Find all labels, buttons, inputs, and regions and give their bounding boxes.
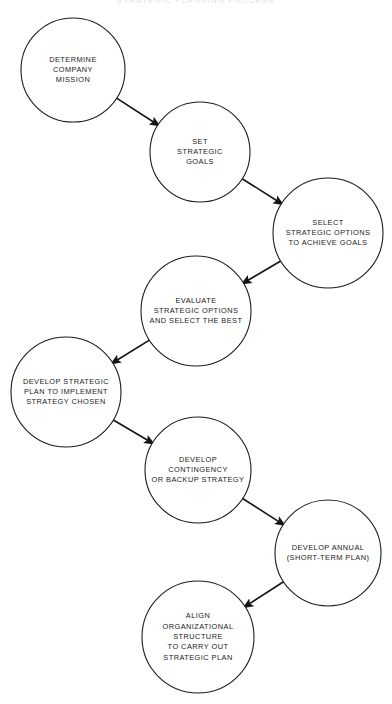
- node-label-line: DEVELOP: [179, 455, 217, 464]
- nodes-group: DETERMINECOMPANYMISSIONSETSTRATEGICGOALS…: [11, 18, 383, 693]
- connector-arrow: [243, 581, 285, 608]
- connector-arrow: [242, 498, 286, 526]
- connector-line: [116, 340, 150, 361]
- node-evaluate-strategic-options[interactable]: EVALUATESTRATEGIC OPTIONSAND SELECT THE …: [141, 256, 251, 366]
- connector-line: [248, 581, 284, 604]
- connector-arrow: [112, 419, 154, 444]
- node-set-strategic-goals[interactable]: SETSTRATEGICGOALS: [150, 102, 250, 202]
- node-label-line: SELECT: [312, 218, 343, 227]
- node-label-line: DEVELOP STRATEGIC: [23, 377, 109, 386]
- node-label-line: STRATEGIC: [177, 147, 223, 156]
- node-label-line: GOALS: [186, 157, 214, 166]
- node-label-line: ALIGN: [186, 611, 210, 620]
- node-label-line: STRATEGIC PLAN: [163, 653, 232, 662]
- connector-line: [242, 498, 280, 522]
- node-label-line: DEVELOP ANNUAL: [292, 543, 365, 552]
- node-select-strategic-options[interactable]: SELECTSTRATEGIC OPTIONSTO ACHIEVE GOALS: [273, 178, 383, 288]
- node-label-line: MISSION: [56, 75, 90, 84]
- node-label-line: ORGANIZATIONAL: [162, 622, 233, 631]
- flowchart-diagram: STRATEGIC PLANNING PROCESS DETERMINECOMP…: [0, 0, 392, 704]
- node-label-line: SET: [192, 137, 208, 146]
- connector-arrow: [241, 260, 282, 284]
- node-label-line: COMPANY: [53, 65, 93, 74]
- node-label-line: STRATEGIC OPTIONS: [286, 228, 371, 237]
- node-label-line: OR BACKUP STRATEGY: [152, 475, 245, 484]
- node-develop-annual-plan[interactable]: DEVELOP ANNUAL(SHORT-TERM PLAN): [275, 500, 381, 606]
- connector-arrow: [241, 178, 284, 205]
- node-label-line: TO CARRY OUT: [168, 642, 229, 651]
- connector-line: [241, 178, 278, 201]
- node-label-line: DETERMINE: [49, 55, 97, 64]
- node-develop-strategic-plan[interactable]: DEVELOP STRATEGICPLAN TO IMPLEMENTSTRATE…: [11, 337, 121, 447]
- node-label-line: AND SELECT THE BEST: [150, 316, 243, 325]
- node-align-organizational-structure[interactable]: ALIGNORGANIZATIONALSTRUCTURETO CARRY OUT…: [142, 581, 254, 693]
- node-determine-company-mission[interactable]: DETERMINECOMPANYMISSION: [21, 18, 125, 122]
- node-label-line: STRATEGIC OPTIONS: [154, 306, 239, 315]
- node-label-line: PLAN TO IMPLEMENT: [24, 387, 108, 396]
- connector-line: [116, 98, 155, 123]
- node-label-line: EVALUATE: [175, 296, 216, 305]
- node-label-line: STRATEGY CHOSEN: [26, 397, 106, 406]
- connector-arrow: [116, 98, 161, 127]
- node-label-line: CONTINGENCY: [168, 465, 228, 474]
- node-label-line: TO ACHIEVE GOALS: [289, 238, 368, 247]
- connector-line: [112, 419, 148, 441]
- node-label-line: (SHORT-TERM PLAN): [287, 553, 370, 562]
- node-label-line: STRUCTURE: [173, 632, 223, 641]
- flowchart-canvas: DETERMINECOMPANYMISSIONSETSTRATEGICGOALS…: [0, 0, 392, 704]
- connector-arrow: [110, 340, 150, 365]
- node-develop-contingency-strategy[interactable]: DEVELOPCONTINGENCYOR BACKUP STRATEGY: [145, 417, 251, 523]
- connector-line: [247, 260, 282, 281]
